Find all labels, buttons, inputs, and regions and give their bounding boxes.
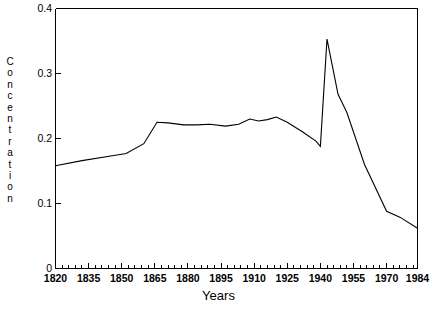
x-tick-label: 1984 [396,272,437,284]
x-axis-tick-labels: 1820183518501865188018951910192519401955… [0,0,437,312]
chart-figure: C o n c e n t r a t i o n 0 0.1 0.2 0.3 … [0,0,437,312]
x-axis-title: Years [0,288,437,303]
